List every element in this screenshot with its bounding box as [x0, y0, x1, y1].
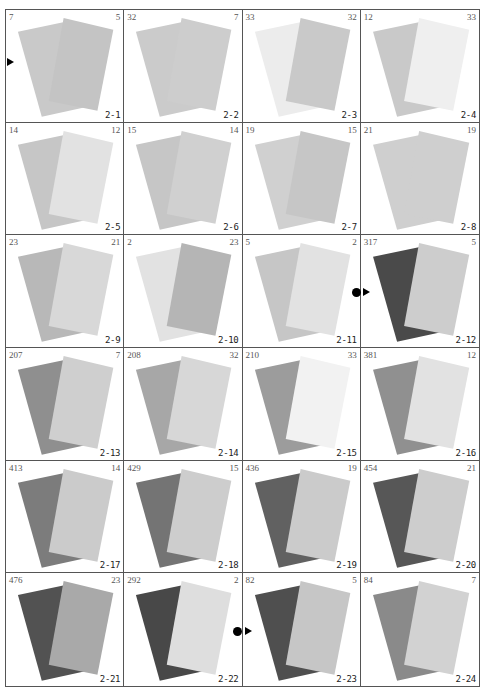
- swatch-cell: 31752-12: [361, 235, 479, 348]
- left-number: 208: [127, 350, 141, 360]
- paper-pair-illustration: [361, 235, 479, 347]
- swatch-cell: 29222-22: [124, 573, 242, 686]
- right-number: 19: [467, 125, 476, 135]
- left-number: 84: [364, 575, 373, 585]
- right-number: 33: [348, 350, 357, 360]
- swatch-cell: 522-11: [243, 235, 361, 348]
- swatch-cell: 15142-6: [124, 123, 242, 236]
- right-number: 15: [230, 463, 239, 473]
- cell-label: 2-12: [456, 335, 476, 345]
- right-number: 19: [348, 463, 357, 473]
- paper-pair-illustration: [361, 348, 479, 460]
- left-number: 381: [364, 350, 378, 360]
- paper-pair-illustration: [361, 461, 479, 573]
- cell-label: 2-11: [336, 335, 356, 345]
- cell-label: 2-2: [223, 110, 238, 120]
- swatch-grid: 752-13272-233322-312332-414122-515142-61…: [5, 9, 480, 687]
- swatch-cell: 23212-9: [6, 235, 124, 348]
- paper-pair-illustration: [243, 123, 360, 235]
- swatch-cell: 476232-21: [6, 573, 124, 686]
- left-number: 210: [246, 350, 260, 360]
- cell-label: 2-21: [100, 674, 120, 684]
- cell-label: 2-1: [105, 110, 120, 120]
- paper-pair-illustration: [243, 10, 360, 122]
- triangle-marker-icon: [363, 288, 370, 296]
- cell-label: 2-7: [341, 222, 356, 232]
- cell-label: 2-13: [100, 448, 120, 458]
- left-number: 7: [9, 12, 14, 22]
- swatch-cell: 210332-15: [243, 348, 361, 461]
- left-number: 14: [9, 125, 18, 135]
- paper-pair-illustration: [124, 123, 241, 235]
- swatch-cell: 3272-2: [124, 10, 242, 123]
- triangle-marker-icon: [7, 58, 14, 66]
- paper-pair-illustration: [361, 10, 479, 122]
- right-number: 32: [230, 350, 239, 360]
- right-number: 23: [111, 575, 120, 585]
- paper-pair-illustration: [361, 573, 479, 686]
- right-number: 7: [116, 350, 121, 360]
- cell-label: 2-20: [456, 560, 476, 570]
- cell-label: 2-23: [336, 674, 356, 684]
- right-number: 5: [116, 12, 121, 22]
- swatch-cell: 2232-10: [124, 235, 242, 348]
- left-number: 82: [246, 575, 255, 585]
- swatch-cell: 413142-17: [6, 461, 124, 574]
- paper-pair-illustration: [124, 461, 241, 573]
- paper-pair-illustration: [6, 573, 123, 686]
- swatch-cell: 12332-4: [361, 10, 479, 123]
- cell-label: 2-10: [218, 335, 238, 345]
- right-number: 5: [352, 575, 357, 585]
- swatch-cell: 436192-19: [243, 461, 361, 574]
- right-number: 2: [352, 237, 357, 247]
- cell-label: 2-16: [456, 448, 476, 458]
- right-number: 5: [472, 237, 477, 247]
- paper-pair-illustration: [361, 123, 479, 235]
- paper-pair-illustration: [6, 123, 123, 235]
- left-number: 12: [364, 12, 373, 22]
- paper-pair-illustration: [124, 10, 241, 122]
- right-number: 32: [348, 12, 357, 22]
- swatch-cell: 19152-7: [243, 123, 361, 236]
- right-number: 21: [467, 463, 476, 473]
- left-number: 292: [127, 575, 141, 585]
- right-number: 14: [230, 125, 239, 135]
- left-number: 32: [127, 12, 136, 22]
- left-number: 413: [9, 463, 23, 473]
- paper-pair-illustration: [6, 10, 123, 122]
- swatch-cell: 33322-3: [243, 10, 361, 123]
- right-number: 12: [467, 350, 476, 360]
- paper-pair-illustration: [124, 235, 241, 347]
- left-number: 2: [127, 237, 132, 247]
- paper-pair-illustration: [124, 573, 241, 686]
- paper-pair-illustration: [243, 348, 360, 460]
- swatch-cell: 8252-23: [243, 573, 361, 686]
- left-number: 207: [9, 350, 23, 360]
- paper-pair-illustration: [243, 235, 360, 347]
- left-number: 21: [364, 125, 373, 135]
- left-number: 15: [127, 125, 136, 135]
- swatch-cell: 429152-18: [124, 461, 242, 574]
- left-number: 33: [246, 12, 255, 22]
- cell-label: 2-14: [218, 448, 238, 458]
- left-number: 436: [246, 463, 260, 473]
- paper-pair-illustration: [6, 461, 123, 573]
- right-number: 7: [234, 12, 239, 22]
- right-number: 7: [472, 575, 477, 585]
- dot-marker-icon: [352, 288, 361, 297]
- right-number: 2: [234, 575, 239, 585]
- left-number: 5: [246, 237, 251, 247]
- cell-label: 2-3: [341, 110, 356, 120]
- paper-pair-illustration: [6, 235, 123, 347]
- paper-pair-illustration: [243, 573, 360, 686]
- left-number: 429: [127, 463, 141, 473]
- paper-pair-illustration: [124, 348, 241, 460]
- cell-label: 2-6: [223, 222, 238, 232]
- right-number: 12: [111, 125, 120, 135]
- swatch-cell: 21192-8: [361, 123, 479, 236]
- swatch-cell: 454212-20: [361, 461, 479, 574]
- swatch-cell: 208322-14: [124, 348, 242, 461]
- left-number: 454: [364, 463, 378, 473]
- cell-label: 2-8: [461, 222, 476, 232]
- paper-pair-illustration: [6, 348, 123, 460]
